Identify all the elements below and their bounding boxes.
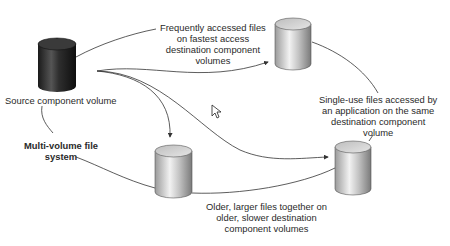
edge-older-to-single — [192, 168, 335, 193]
fast-volume-cylinder — [275, 18, 311, 70]
diagram-canvas: Source component volume Frequently acces… — [0, 0, 450, 246]
leader-source-fast-label — [76, 29, 156, 57]
source-volume-label: Source component volume — [5, 95, 117, 106]
source-volume-cylinder — [38, 38, 76, 92]
single-volume-label: Single-use files accessed by an applicat… — [319, 94, 437, 138]
arrow-cursor-icon — [212, 105, 221, 118]
older-volume-cylinder — [155, 145, 192, 198]
multi-volume-file-system-label: Multi-volume file system — [24, 140, 98, 162]
single-volume-cylinder — [335, 141, 371, 195]
older-volume-label: Older, larger files together on older, s… — [206, 201, 327, 234]
leader-source-mvfs — [42, 106, 53, 133]
leader-single-label — [312, 42, 378, 93]
fast-volume-label: Frequently accessed files on fastest acc… — [160, 22, 266, 66]
